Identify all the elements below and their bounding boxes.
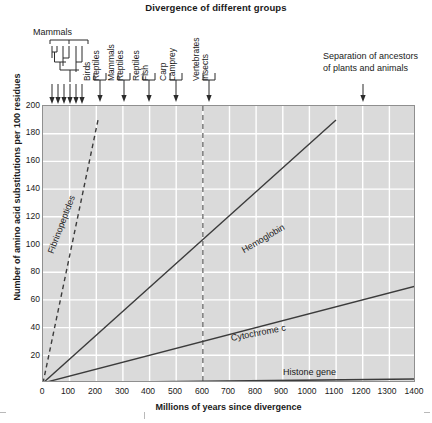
page-edge-mark-right bbox=[424, 412, 430, 413]
y-tick-200: 200 bbox=[16, 101, 40, 109]
plot-area bbox=[42, 105, 415, 382]
y-tick-80: 80 bbox=[16, 267, 40, 275]
series-label-histone-gene: Histone gene bbox=[283, 367, 336, 377]
series-line-hemoglobin bbox=[43, 120, 336, 382]
page-edge-mark-center bbox=[144, 412, 145, 419]
divergence-annotation-layer: Mammals Birds Reptiles Mammals Reptiles … bbox=[0, 0, 432, 110]
page-edge-mark-left bbox=[0, 412, 6, 413]
evolutionary-clock-chart: Divergence of different groups bbox=[0, 0, 432, 423]
y-tick-100: 100 bbox=[16, 240, 40, 248]
plot-canvas bbox=[43, 106, 415, 382]
y-tick-180: 180 bbox=[16, 128, 40, 136]
x-axis-title: Millions of years since divergence bbox=[42, 402, 415, 412]
marker-label-lamprey: Lamprey bbox=[168, 48, 177, 81]
y-tick-140: 140 bbox=[16, 184, 40, 192]
marker-label-reptiles-1: Reptiles bbox=[92, 50, 101, 81]
y-tick-20: 20 bbox=[16, 351, 40, 359]
y-axis: Number of amino acid substitutions per 1… bbox=[0, 0, 40, 423]
x-tick-1400: 1400 bbox=[397, 386, 431, 396]
y-tick-160: 160 bbox=[16, 156, 40, 164]
marker-label-reptiles-2: Reptiles bbox=[116, 50, 125, 81]
y-tick-60: 60 bbox=[16, 295, 40, 303]
y-tick-120: 120 bbox=[16, 212, 40, 220]
marker-label-fish: Fish bbox=[141, 65, 150, 81]
marker-label-insects: Insects bbox=[201, 54, 210, 81]
y-tick-40: 40 bbox=[16, 323, 40, 331]
marker-label-separation-of-ancestors: Separation of ancestors of plants and an… bbox=[323, 51, 423, 74]
